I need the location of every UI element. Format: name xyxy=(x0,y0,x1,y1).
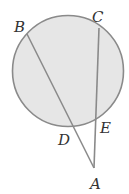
secant-circle-diagram: B C D E A xyxy=(0,0,129,194)
point-label-d: D xyxy=(57,131,70,149)
point-label-c: C xyxy=(92,8,104,26)
point-label-e: E xyxy=(99,119,111,137)
circle xyxy=(13,16,124,127)
point-label-a: A xyxy=(88,175,101,193)
point-label-b: B xyxy=(13,18,25,36)
